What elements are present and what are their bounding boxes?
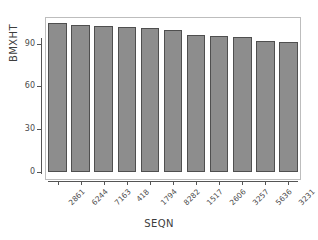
x-tick-label: 2606 xyxy=(229,188,248,207)
bar xyxy=(210,36,228,172)
bar xyxy=(71,25,89,172)
x-tick-mark xyxy=(173,181,174,185)
y-tick-mark xyxy=(37,86,41,87)
x-tick-mark xyxy=(150,181,151,185)
x-tick-mark xyxy=(127,181,128,185)
x-tick-label: 5636 xyxy=(275,188,294,207)
x-tick-label: 3257 xyxy=(252,188,271,207)
x-tick-label: 1794 xyxy=(159,188,178,207)
bar xyxy=(141,28,159,172)
x-tick-label: 8282 xyxy=(183,188,202,207)
y-tick-label: 0 xyxy=(30,168,35,176)
bar xyxy=(164,30,182,172)
y-tick-label: 60 xyxy=(25,82,35,90)
y-tick-label: 90 xyxy=(25,40,35,48)
x-tick-label: 6244 xyxy=(90,188,109,207)
y-tick-mark xyxy=(37,129,41,130)
y-axis-line xyxy=(41,38,42,174)
x-tick-mark xyxy=(104,181,105,185)
x-tick-mark xyxy=(81,181,82,185)
y-tick-label: 30 xyxy=(25,125,35,133)
x-tick-mark xyxy=(196,181,197,185)
bars-container xyxy=(46,18,300,172)
bar xyxy=(187,35,205,172)
x-tick-label: 2861 xyxy=(67,188,86,207)
bar xyxy=(48,23,66,172)
y-tick-mark xyxy=(37,44,41,45)
bar xyxy=(279,42,297,172)
bar xyxy=(233,37,251,172)
x-axis-title: SEQN xyxy=(0,218,318,229)
y-axis-title: BMXHT xyxy=(8,24,19,62)
x-tick-mark xyxy=(219,181,220,185)
bar xyxy=(118,27,136,172)
x-tick-label: 7163 xyxy=(113,188,132,207)
x-tick-label: 3231 xyxy=(298,188,317,207)
bar xyxy=(256,41,274,172)
x-tick-mark xyxy=(58,181,59,185)
bar-chart: 0306090 28616244716341817948282151726063… xyxy=(0,0,318,240)
x-tick-mark xyxy=(265,181,266,185)
y-tick-mark xyxy=(37,172,41,173)
x-tick-mark xyxy=(242,181,243,185)
x-tick-label: 1517 xyxy=(206,188,225,207)
x-tick-label: 418 xyxy=(135,188,151,204)
bar xyxy=(94,26,112,172)
x-tick-mark xyxy=(288,181,289,185)
